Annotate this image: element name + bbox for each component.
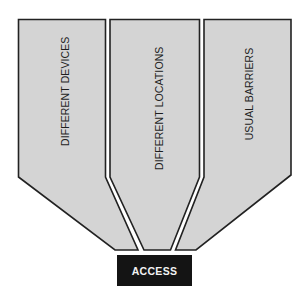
access-label: ACCESS	[132, 265, 178, 277]
funnel-diagram: DIFFERENT DEVICES DIFFERENT LOCATIONS US…	[0, 0, 308, 299]
column-barriers-label: USUAL BARRIERS	[243, 44, 255, 144]
column-locations-label: DIFFERENT LOCATIONS	[153, 50, 165, 170]
column-devices-label: DIFFERENT DEVICES	[59, 46, 71, 146]
access-target-box: ACCESS	[117, 255, 192, 286]
